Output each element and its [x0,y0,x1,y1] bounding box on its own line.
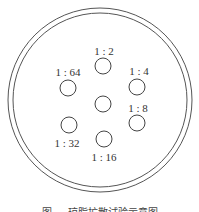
well-label: 1 : 16 [91,151,117,163]
well [129,79,145,95]
well [95,58,111,74]
well [61,117,77,133]
agar-plate-diagram: 1 : 21 : 41 : 81 : 161 : 321 : 64 图 — 琼脂… [0,0,199,212]
well-label: 1 : 2 [94,45,114,57]
center-well [95,96,111,112]
well-label: 1 : 32 [54,137,79,149]
figure-caption: 图 — 琼脂扩散试验示意图 [42,206,158,212]
well [60,80,76,96]
well [129,115,145,131]
well-label: 1 : 4 [129,65,149,77]
well [96,131,112,147]
plate-outer-ring [8,8,192,192]
well-label: 1 : 8 [128,102,148,114]
well-label: 1 : 64 [55,66,81,78]
